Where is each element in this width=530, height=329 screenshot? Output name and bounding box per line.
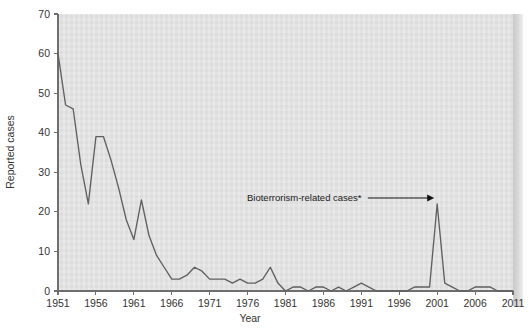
- x-tick-label: 1996: [388, 297, 412, 309]
- y-tick-label: 20: [38, 205, 50, 217]
- y-tick-label: 10: [38, 245, 50, 257]
- y-axis-ticks: [54, 14, 58, 291]
- chart-figure: 010203040506070 195119561961196619711976…: [0, 0, 530, 329]
- y-tick-label: 40: [38, 126, 50, 138]
- y-tick-label: 60: [38, 47, 50, 59]
- x-axis-title: Year: [239, 312, 261, 324]
- annotation-arrow-head: [427, 195, 434, 202]
- x-tick-label: 1951: [46, 297, 70, 309]
- data-series-line: [58, 54, 513, 291]
- y-tick-label: 50: [38, 87, 50, 99]
- x-tick-label: 1976: [236, 297, 260, 309]
- y-tick-label: 30: [38, 166, 50, 178]
- bioterrorism-annotation-label: Bioterrorism-related cases*: [247, 192, 362, 203]
- x-tick-label: 1966: [160, 297, 184, 309]
- y-tick-label: 0: [44, 285, 50, 297]
- y-axis-tick-labels: 010203040506070: [38, 8, 50, 297]
- x-tick-label: 2001: [425, 297, 449, 309]
- x-tick-label: 1981: [274, 297, 298, 309]
- x-tick-label: 1961: [122, 297, 146, 309]
- y-axis-title: Reported cases: [4, 115, 16, 189]
- x-tick-label: 2006: [463, 297, 487, 309]
- x-tick-label: 1956: [84, 297, 108, 309]
- line-chart-svg: 010203040506070 195119561961196619711976…: [0, 0, 530, 329]
- x-tick-label: 1971: [198, 297, 222, 309]
- y-tick-label: 70: [38, 8, 50, 20]
- x-axis-tick-labels: 1951195619611966197119761981198619911996…: [46, 297, 524, 309]
- x-tick-label: 1991: [350, 297, 374, 309]
- x-tick-label: 1986: [312, 297, 336, 309]
- x-tick-label: 2011: [502, 297, 525, 309]
